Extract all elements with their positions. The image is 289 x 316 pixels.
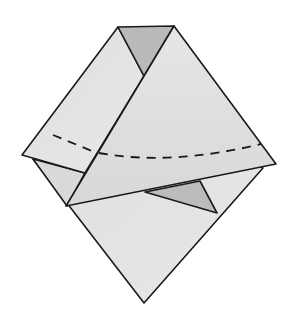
origami-diagram — [0, 0, 289, 316]
